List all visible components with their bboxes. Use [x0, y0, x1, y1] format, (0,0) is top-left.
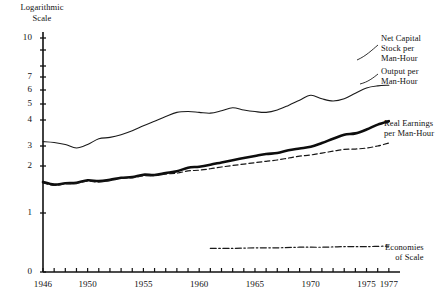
x-tick-label: 1970	[291, 280, 331, 289]
net-capital-line2: Stock per	[381, 43, 421, 53]
series-label-real-earnings: Real Earnings per Man-Hour	[384, 118, 434, 138]
econ-line2: of Scale	[385, 252, 424, 262]
y-tick-label: 5	[16, 99, 32, 108]
y-tick-label: 4	[16, 115, 32, 124]
axes	[43, 32, 400, 272]
econ-line1: Economies	[385, 242, 424, 252]
label-leader-lines	[357, 45, 378, 84]
y-tick-label: 10	[16, 33, 32, 42]
series-line-output-per-man-hour	[43, 121, 389, 184]
x-tick-label: 1955	[123, 280, 163, 289]
y-tick-label: 3	[16, 141, 32, 150]
net-capital-line3: Man-Hour	[381, 53, 421, 63]
x-tick-label: 1977	[369, 280, 409, 289]
chart-container: Logarithmic Scale Net Capital Stock per …	[0, 0, 442, 300]
y-tick-label: 6	[16, 85, 32, 94]
x-tick-label: 1960	[179, 280, 219, 289]
series-line-economies-of-scale	[210, 246, 389, 248]
series-label-economies: Economies of Scale	[385, 242, 424, 262]
leader-line-net-capital	[357, 45, 378, 60]
output-line2: Man-Hour	[381, 76, 419, 86]
y-tick-label: 7	[16, 72, 32, 81]
y-tick-label: 1	[16, 208, 32, 217]
chart-plot-area	[0, 0, 442, 300]
earnings-line2: per Man-Hour	[384, 128, 434, 138]
leader-line-output	[360, 74, 378, 84]
y-tick-label: 0	[16, 267, 32, 276]
y-tick-label: 2	[16, 161, 32, 170]
output-line1: Output per	[381, 66, 419, 76]
x-tick-label: 1946	[23, 280, 63, 289]
data-series-group	[43, 85, 389, 248]
x-tick-label: 1965	[235, 280, 275, 289]
net-capital-line1: Net Capital	[381, 33, 421, 43]
series-label-net-capital: Net Capital Stock per Man-Hour	[381, 33, 421, 64]
earnings-line1: Real Earnings	[384, 118, 434, 128]
series-label-output: Output per Man-Hour	[381, 66, 419, 86]
x-tick-label: 1950	[68, 280, 108, 289]
